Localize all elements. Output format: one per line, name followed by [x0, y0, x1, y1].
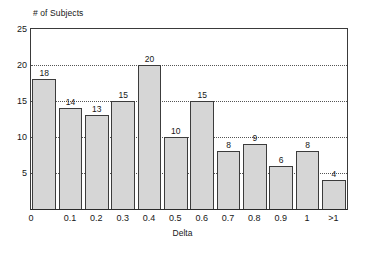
y-tick-label: 10	[17, 132, 27, 142]
bar[interactable]	[296, 151, 320, 209]
x-tick-label: 0.1	[64, 213, 77, 223]
bar[interactable]	[322, 180, 346, 209]
bar-value-label: 6	[279, 155, 284, 165]
bars-group: 1814131520101589684	[31, 29, 347, 209]
y-tick-label: 15	[17, 96, 27, 106]
x-tick-label: 0.6	[195, 213, 208, 223]
y-tick-label: 25	[17, 24, 27, 34]
x-tick-label: 0	[28, 213, 33, 223]
bar[interactable]	[85, 115, 109, 209]
bar-value-label: 20	[145, 54, 154, 64]
plot-inner: 510152025 1814131520101589684	[31, 29, 347, 209]
bar-value-label: 4	[331, 169, 336, 179]
plot-area: 510152025 1814131520101589684	[30, 28, 348, 210]
bar-value-label: 8	[226, 140, 231, 150]
x-tick-label: 0.2	[90, 213, 103, 223]
x-tick-label: >1	[328, 213, 338, 223]
bar-value-label: 15	[197, 90, 206, 100]
x-tick-label: 1	[305, 213, 310, 223]
bar-value-label: 15	[118, 90, 127, 100]
bar-chart-figure: # of Subjects 510152025 1814131520101589…	[0, 0, 365, 253]
bar-value-label: 18	[39, 68, 48, 78]
bar[interactable]	[190, 101, 214, 209]
bar-value-label: 8	[305, 140, 310, 150]
bar[interactable]	[164, 137, 188, 209]
bar[interactable]	[269, 166, 293, 209]
y-tick-label: 5	[22, 168, 27, 178]
bar-value-label: 13	[92, 104, 101, 114]
bar[interactable]	[243, 144, 267, 209]
y-tick-label: 20	[17, 60, 27, 70]
x-tick-label: 0.4	[143, 213, 156, 223]
bar[interactable]	[32, 79, 56, 209]
x-tick-label: 0.9	[274, 213, 287, 223]
y-axis-label: # of Subjects	[33, 8, 83, 18]
bar[interactable]	[138, 65, 162, 209]
x-tick-label: 0.7	[222, 213, 235, 223]
bar-value-label: 14	[66, 97, 75, 107]
x-tick-label: 0.8	[248, 213, 261, 223]
x-tick-label: 0.5	[169, 213, 182, 223]
bar-value-label: 10	[171, 126, 180, 136]
bar[interactable]	[217, 151, 241, 209]
x-axis-label: Delta	[0, 228, 365, 238]
bar[interactable]	[111, 101, 135, 209]
x-tick-label: 0.3	[116, 213, 129, 223]
bar[interactable]	[59, 108, 83, 209]
bar-value-label: 9	[252, 133, 257, 143]
